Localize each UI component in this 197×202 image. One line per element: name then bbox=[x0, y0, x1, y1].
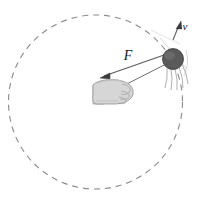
velocity-label: v bbox=[183, 20, 188, 32]
physics-figure-canvas: F v bbox=[0, 0, 197, 202]
hand-fist bbox=[93, 80, 134, 104]
ball bbox=[163, 49, 184, 70]
circular-motion-diagram: F v bbox=[0, 0, 197, 202]
force-label: F bbox=[123, 48, 133, 63]
